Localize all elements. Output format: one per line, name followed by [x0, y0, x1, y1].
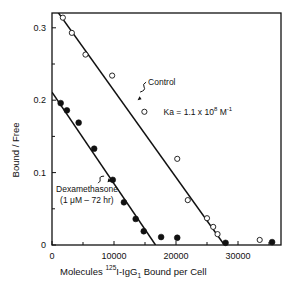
annotations: ControlKa = 1.1 x 108 M-1Dexamethasone(1… [56, 77, 233, 205]
control-data-point [211, 224, 216, 229]
control-data-point [69, 30, 74, 35]
y-tick-label: 0.2 [33, 95, 46, 105]
control-data-point [204, 216, 209, 221]
control-label: Control [148, 77, 176, 87]
plot-frame [52, 13, 281, 245]
data-points [58, 15, 275, 246]
dexamethasone-condition-label: (1 μM – 72 hr) [60, 195, 114, 205]
dexamethasone-data-point [76, 120, 82, 126]
dexamethasone-data-point [110, 177, 116, 183]
dexamethasone-data-point [64, 107, 70, 113]
dexamethasone-data-point [121, 199, 127, 205]
ka-annotation: Ka = 1.1 x 108 M-1 [164, 106, 233, 117]
dexamethasone-pointer-arrow [98, 176, 104, 183]
x-tick-label: 20000 [163, 251, 188, 261]
scatchard-plot: 010000200003000000.10.20.3 ControlKa = 1… [0, 0, 293, 300]
control-data-point [142, 109, 147, 114]
dexamethasone-label: Dexamethasone [56, 184, 118, 194]
dexamethasone-data-point [91, 146, 97, 152]
y-tick-label: 0.3 [33, 23, 46, 33]
x-axis-label: Molecules 125I-IgG1 Bound per Cell [60, 264, 207, 279]
control-data-point [60, 15, 65, 20]
y-tick-label: 0.1 [33, 168, 46, 178]
dexamethasone-fit-line [52, 92, 156, 245]
control-data-point [185, 198, 190, 203]
control-data-point [110, 73, 115, 78]
control-data-point [83, 52, 88, 57]
y-tick-label: 0 [41, 240, 46, 250]
dexamethasone-data-point [58, 100, 64, 106]
control-data-point [215, 232, 220, 237]
control-pointer-arrow [140, 82, 146, 92]
plot-border [52, 13, 281, 245]
y-axis-label: Bound / Free [10, 123, 21, 178]
dexamethasone-data-point [269, 239, 275, 245]
x-tick-label: 0 [49, 251, 54, 261]
control-data-point [257, 237, 262, 242]
dexamethasone-data-point [133, 216, 139, 222]
x-tick-label: 10000 [101, 251, 126, 261]
x-tick-label: 30000 [225, 251, 250, 261]
arrowhead-icon [138, 96, 142, 100]
control-data-point [175, 156, 180, 161]
dexamethasone-data-point [174, 235, 180, 241]
dexamethasone-data-point [158, 234, 164, 240]
dexamethasone-data-point [223, 240, 229, 246]
dexamethasone-data-point [141, 228, 147, 234]
